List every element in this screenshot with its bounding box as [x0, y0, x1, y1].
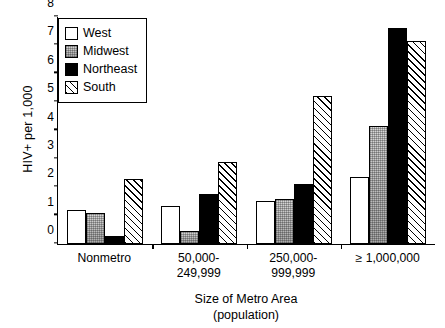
legend-swatch-northeast	[65, 63, 78, 76]
bar-south	[313, 96, 332, 244]
bar-group	[247, 17, 341, 244]
y-axis-tick-label: 3	[47, 138, 54, 152]
legend-item: Midwest	[65, 42, 137, 60]
bar-northeast	[294, 184, 313, 244]
legend-item: West	[65, 24, 137, 42]
bar-west	[67, 210, 86, 244]
bar-northeast	[105, 236, 124, 245]
x-axis-tick-mark	[152, 244, 153, 249]
bar-northeast	[199, 194, 218, 244]
legend-label: Northeast	[83, 62, 137, 76]
y-axis-tick-label: 4	[47, 110, 54, 124]
x-axis-category-label: 50,000- 249,999	[152, 251, 247, 280]
y-axis-tick-label: 2	[47, 166, 54, 180]
legend-swatch-midwest	[65, 45, 78, 58]
bar-south	[407, 41, 426, 244]
x-axis-category-label: ≥ 1,000,000	[341, 251, 436, 280]
bar-midwest	[369, 126, 388, 244]
bar-group-bars	[152, 17, 246, 244]
x-axis-category-label: 250,000- 999,999	[246, 251, 341, 280]
y-axis-tick-label: 6	[47, 53, 54, 67]
bar-midwest	[86, 213, 105, 244]
bar-group	[341, 17, 435, 244]
x-axis-category-labels: Nonmetro50,000- 249,999250,000- 999,999≥…	[57, 251, 435, 280]
y-axis-tick-label: 5	[47, 81, 54, 95]
bar-northeast	[388, 28, 407, 244]
x-axis-title: Size of Metro Area (population)	[57, 291, 435, 323]
bar-south	[218, 162, 237, 244]
hiv-prevalence-bar-chart: HIV+ per 1,000 012345678 Nonmetro50,000-…	[0, 0, 445, 328]
y-axis-tick-label: 0	[47, 223, 54, 237]
legend-label: West	[83, 26, 111, 40]
bar-west	[161, 206, 180, 244]
legend-item: South	[65, 78, 137, 96]
x-axis-tick-mark	[341, 244, 342, 249]
y-axis-tick-label: 1	[47, 195, 54, 209]
legend-swatch-west	[65, 27, 78, 40]
bar-group-bars	[341, 17, 435, 244]
bar-group	[152, 17, 246, 244]
legend-swatch-south	[65, 81, 78, 94]
y-axis-title: HIV+ per 1,000	[21, 39, 35, 219]
legend: WestMidwestNortheastSouth	[58, 18, 147, 103]
y-axis-tick-label: 7	[47, 24, 54, 38]
y-axis-tick-label: 8	[47, 0, 54, 10]
bar-midwest	[180, 231, 199, 244]
legend-label: South	[83, 80, 116, 94]
legend-label: Midwest	[83, 44, 129, 58]
legend-item: Northeast	[65, 60, 137, 78]
bar-west	[350, 177, 369, 244]
bar-west	[256, 201, 275, 244]
bar-midwest	[275, 199, 294, 244]
bar-south	[124, 179, 143, 244]
x-axis-tick-mark	[247, 244, 248, 249]
bar-group-bars	[247, 17, 341, 244]
x-axis-category-label: Nonmetro	[57, 251, 152, 280]
